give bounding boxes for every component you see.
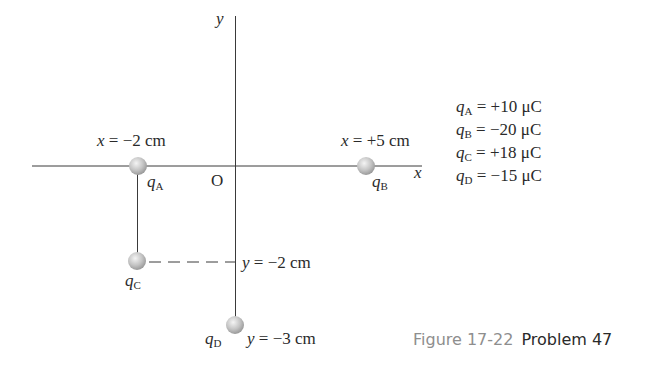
charge-c-label: qC — [125, 272, 141, 291]
charge-b-label: qB — [372, 173, 388, 192]
x-axis-label: x — [414, 164, 422, 181]
figure-number: Figure 17-22 — [413, 330, 513, 349]
charge-c-sphere — [128, 252, 146, 270]
charge-d-label: qD — [205, 330, 221, 349]
origin-label: O — [211, 172, 223, 189]
charge-d-position-label: y = −3 cm — [247, 330, 316, 347]
y-axis-label: y — [216, 10, 224, 27]
charge-values-legend: qA = +10 μC qB = −20 μC qC = +18 μC qD =… — [456, 96, 542, 191]
legend-item-d: qD = −15 μC — [456, 165, 542, 191]
diagram-canvas — [0, 0, 661, 373]
problem-number: Problem 47 — [521, 330, 612, 349]
charge-a-label: qA — [147, 173, 163, 192]
figure-caption: Figure 17-22Problem 47 — [413, 330, 612, 349]
charge-c-position-label: y = −2 cm — [242, 254, 311, 271]
charge-a-position-label: x = −2 cm — [97, 132, 166, 149]
charge-d-sphere — [226, 316, 244, 334]
charge-b-position-label: x = +5 cm — [341, 132, 410, 149]
charge-a-sphere — [129, 157, 147, 175]
